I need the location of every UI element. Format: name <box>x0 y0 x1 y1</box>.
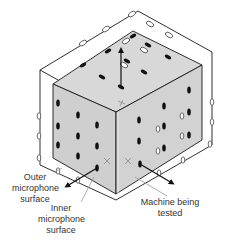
label-line: Machine being <box>130 197 210 208</box>
label-line: microphone <box>12 183 58 194</box>
machine-box <box>53 31 202 194</box>
label-line: Inner <box>38 203 84 214</box>
label-line: Outer <box>12 172 58 183</box>
machine-being-tested-label: Machine being tested <box>130 197 210 219</box>
label-line: microphone <box>38 214 84 225</box>
outer-microphone-surface-label: Outer microphone surface <box>12 172 58 205</box>
label-line: tested <box>130 208 210 219</box>
label-line: surface <box>38 225 84 236</box>
inner-microphone-surface-label: Inner microphone surface <box>38 203 84 236</box>
